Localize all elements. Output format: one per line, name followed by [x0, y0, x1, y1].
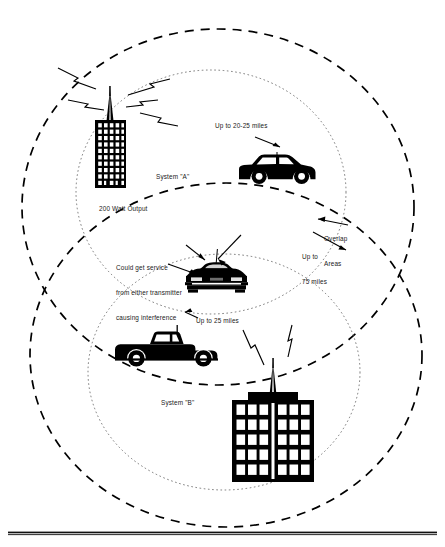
coverage-diagram — [0, 0, 445, 547]
system-a-label: System "A" — [156, 173, 189, 181]
range-b-label: Up to 25 miles — [196, 317, 239, 325]
building-a-icon — [95, 120, 126, 188]
vehicle-car-front-icon — [185, 249, 248, 293]
figure-canvas: Up to 20-25 miles System "A" 200 Watt Ou… — [0, 0, 445, 547]
overlap-range-line-2: 75 miles — [302, 278, 327, 286]
building-b-icon — [232, 392, 314, 482]
overlap-range-line-1: Up to — [302, 253, 327, 261]
lightning-bolt-icon — [126, 100, 158, 107]
system-b-coverage-rings — [30, 183, 422, 527]
interference-note-line-1: Could get service — [116, 264, 182, 272]
interference-note-line-2: from either transmitter — [116, 289, 182, 297]
bottom-rule — [8, 532, 437, 536]
system-a-outer-coverage-ellipse — [22, 29, 414, 385]
vehicle-suv-icon — [239, 152, 316, 184]
overlap-areas-line-1: Overlap — [324, 235, 347, 243]
tower-a-antenna-icon — [107, 86, 114, 121]
interference-note: Could get service from either transmitte… — [116, 247, 182, 339]
tower-a-signal-bolts — [58, 68, 178, 126]
system-a-coverage-rings — [22, 29, 414, 385]
system-b-label: System "B" — [161, 399, 194, 407]
system-a-power-label: 200 Watt Output — [99, 205, 148, 213]
overlap-range-label: Up to 75 miles — [302, 236, 327, 303]
arrow-icon — [218, 235, 241, 259]
lightning-bolt-icon — [68, 100, 104, 110]
lightning-bolt-icon — [140, 113, 178, 126]
system-b-tower-building-group — [232, 358, 314, 482]
overlap-areas-line-2: Areas — [324, 260, 347, 268]
lightning-bolt-icon — [128, 79, 170, 95]
lightning-bolt-icon — [288, 325, 292, 357]
system-a-tower-building-group — [95, 86, 126, 188]
interference-note-line-3: causing interference — [116, 314, 182, 322]
overlap-areas-label: Overlap Areas — [324, 218, 347, 285]
range-a-pointer-arrow — [255, 137, 280, 147]
system-b-outer-coverage-ellipse — [30, 183, 422, 527]
lightning-bolt-icon — [243, 330, 264, 365]
range-a-label: Up to 20-25 miles — [215, 122, 268, 130]
figure-caption — [10, 540, 430, 547]
tower-b-signal-bolts — [243, 325, 292, 365]
